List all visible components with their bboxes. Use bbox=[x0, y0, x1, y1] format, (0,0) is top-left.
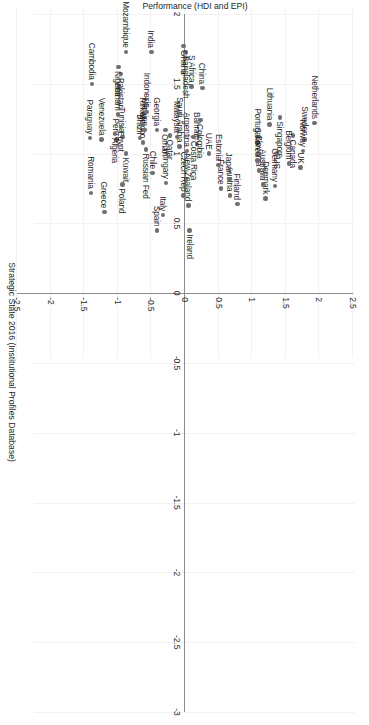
y-tick-label: -1.5 bbox=[79, 297, 89, 311]
gridline-horizontal bbox=[50, 8, 51, 358]
scatter-point bbox=[298, 165, 302, 169]
point-label: Ghana bbox=[179, 50, 189, 74]
scatter-figure: 21.510.50-0.5-1-1.5-2-2.5-32.521.510.50-… bbox=[0, 0, 369, 725]
scatter-point bbox=[287, 161, 291, 165]
scatter-point bbox=[198, 118, 202, 122]
point-label: Greece bbox=[99, 182, 109, 209]
y-tick-label: 2.5 bbox=[348, 297, 358, 309]
y-tick-label: -0.5 bbox=[146, 297, 156, 311]
gridline-horizontal bbox=[251, 8, 252, 358]
point-label: Indonesia bbox=[142, 73, 152, 108]
scatter-point bbox=[235, 202, 239, 206]
point-label: India bbox=[146, 30, 156, 47]
scatter-point bbox=[261, 182, 265, 186]
y-tick-label: 0 bbox=[180, 297, 190, 302]
scatter-point bbox=[255, 158, 259, 162]
scatter-point bbox=[182, 44, 186, 48]
x-tick-label: 0.5 bbox=[172, 218, 182, 230]
x-tick-label: -0.5 bbox=[172, 356, 182, 370]
point-label: Romania bbox=[86, 156, 96, 188]
scatter-point bbox=[100, 137, 104, 141]
point-label: Cambodia bbox=[87, 43, 97, 80]
scatter-point bbox=[141, 140, 145, 144]
scatter-point bbox=[116, 65, 120, 69]
scatter-point bbox=[186, 203, 190, 207]
scatter-point bbox=[149, 50, 153, 54]
y-axis-title: Performance (HDI and EPI) bbox=[142, 1, 247, 11]
point-label: China bbox=[198, 63, 208, 84]
scatter-point bbox=[200, 86, 204, 90]
scatter-point bbox=[143, 128, 147, 132]
y-tick-label: 2 bbox=[314, 297, 324, 302]
scatter-point bbox=[155, 128, 159, 132]
plot-area: 21.510.50-0.5-1-1.5-2-2.5-32.521.510.50-… bbox=[0, 0, 369, 725]
gridline-horizontal bbox=[117, 8, 118, 358]
y-tick-label: 1 bbox=[247, 297, 257, 302]
scatter-point bbox=[164, 181, 168, 185]
y-axis-line bbox=[17, 293, 353, 294]
scatter-point bbox=[116, 112, 120, 116]
scatter-point bbox=[257, 168, 261, 172]
point-label: UAE bbox=[204, 133, 214, 150]
point-label: Netherlands bbox=[310, 75, 320, 119]
scatter-point bbox=[144, 147, 148, 151]
y-tick-label: 1.5 bbox=[281, 297, 291, 309]
x-tick-label: 2 bbox=[172, 12, 182, 17]
point-label: Georgia bbox=[152, 97, 162, 126]
gridline-horizontal bbox=[318, 8, 319, 358]
point-label: Kuwait bbox=[121, 158, 131, 182]
scatter-point bbox=[141, 122, 145, 126]
gridline-vertical bbox=[34, 84, 355, 85]
chart-root: 21.510.50-0.5-1-1.5-2-2.5-32.521.510.50-… bbox=[0, 0, 369, 725]
x-tick-label: -2 bbox=[172, 569, 182, 576]
y-tick-label: 0.5 bbox=[214, 297, 224, 309]
scatter-point bbox=[89, 191, 93, 195]
point-label: Czech Rep bbox=[179, 151, 189, 191]
x-tick-label: -1 bbox=[172, 429, 182, 436]
scatter-point bbox=[219, 186, 223, 190]
x-axis-title: Strategic State 2016 (Institutional Prof… bbox=[7, 262, 17, 462]
x-tick-label: -3 bbox=[172, 708, 182, 715]
scatter-point bbox=[216, 163, 220, 167]
point-label: Russian Fed bbox=[141, 153, 151, 198]
gridline-vertical bbox=[34, 642, 355, 643]
y-tick-label: -2 bbox=[46, 297, 56, 304]
x-tick-label: -2.5 bbox=[172, 635, 182, 649]
gridline-vertical bbox=[34, 223, 355, 224]
scatter-point bbox=[124, 50, 128, 54]
scatter-point bbox=[120, 182, 124, 186]
scatter-point bbox=[313, 121, 317, 125]
gridline-vertical bbox=[34, 363, 355, 364]
point-label: Poland bbox=[118, 188, 128, 213]
point-label: Nigeria bbox=[114, 71, 124, 96]
gridline-vertical bbox=[34, 503, 355, 504]
scatter-point bbox=[163, 128, 167, 132]
gridline-vertical bbox=[34, 572, 355, 573]
scatter-point bbox=[145, 110, 149, 114]
point-label: Ireland bbox=[185, 234, 195, 259]
x-tick-label: -1.5 bbox=[172, 495, 182, 509]
point-label: Mozambique bbox=[121, 1, 131, 47]
scatter-point bbox=[263, 196, 267, 200]
point-label: Estonia bbox=[214, 134, 224, 161]
point-label: Egypt bbox=[116, 131, 126, 152]
scatter-point bbox=[273, 184, 277, 188]
gridline-vertical bbox=[34, 433, 355, 434]
point-label: S Korea bbox=[253, 127, 263, 156]
scatter-point bbox=[88, 136, 92, 140]
point-label: Lithuania bbox=[265, 88, 275, 121]
point-label: Spain bbox=[152, 206, 162, 227]
scatter-point bbox=[182, 193, 186, 197]
scatter-point bbox=[268, 122, 272, 126]
point-label: Paraguay bbox=[85, 100, 95, 135]
scatter-point bbox=[102, 210, 106, 214]
scatter-point bbox=[155, 228, 159, 232]
gridline-vertical bbox=[34, 14, 355, 15]
scatter-point bbox=[177, 144, 181, 148]
x-tick-label: 0 bbox=[172, 291, 182, 296]
y-tick-label: -1 bbox=[113, 297, 123, 304]
scatter-point bbox=[188, 228, 192, 232]
point-label: Norway bbox=[298, 119, 308, 147]
point-label: Germany bbox=[270, 148, 280, 181]
point-label: Malaysia bbox=[172, 101, 182, 133]
